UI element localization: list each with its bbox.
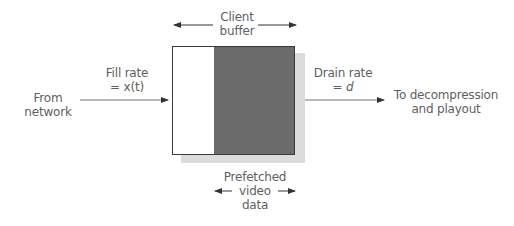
drain-rate-label: Drain rate = d: [308, 66, 378, 94]
client-buffer: [172, 46, 295, 155]
client-buffer-label: Client buffer: [212, 10, 262, 38]
sink-label: To decompression and playout: [386, 88, 506, 116]
prefetched-data-region: [214, 47, 294, 154]
fill-rate-label: Fill rate = x(t): [92, 66, 162, 94]
prefetched-label: Prefetched video data: [220, 170, 290, 212]
source-label: From network: [18, 91, 78, 119]
